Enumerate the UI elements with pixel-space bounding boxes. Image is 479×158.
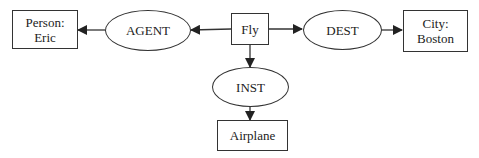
node-agent-label: AGENT (126, 23, 170, 38)
node-city: City: Boston (403, 10, 468, 52)
node-inst: INST (212, 67, 289, 107)
node-fly-label: Fly (241, 22, 258, 37)
node-person: Person: Eric (12, 10, 78, 49)
node-dest: DEST (303, 10, 382, 50)
edge-fly-agent (191, 29, 231, 30)
node-dest-label: DEST (326, 23, 359, 38)
node-inst-label: INST (236, 80, 265, 95)
node-fly: Fly (231, 13, 269, 45)
node-city-label: City: Boston (417, 16, 454, 46)
node-agent: AGENT (105, 10, 191, 51)
node-airplane-label: Airplane (230, 128, 275, 143)
node-airplane: Airplane (217, 120, 288, 151)
node-person-label: Person: Eric (26, 15, 65, 45)
